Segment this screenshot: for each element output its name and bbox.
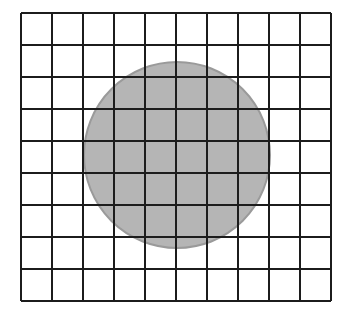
grid-circle-diagram xyxy=(0,0,352,318)
